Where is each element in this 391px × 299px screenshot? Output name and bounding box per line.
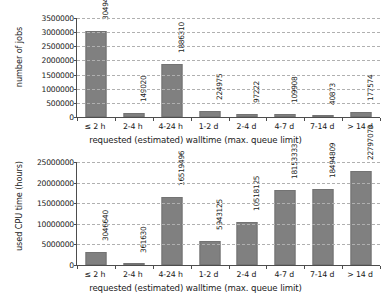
x-tick-mark (304, 266, 305, 269)
x-tick-mark (304, 118, 305, 121)
gridline (77, 203, 380, 204)
jobs-bar-chart: number of jobs 0500000100000015000002000… (0, 0, 391, 149)
y-tick-label: 500000 (46, 98, 74, 107)
bar[interactable] (237, 222, 258, 265)
y-tick-label: 2000000 (42, 56, 74, 65)
x-tick-mark (229, 118, 230, 121)
gridline (77, 103, 380, 104)
x-tick-mark (115, 266, 116, 269)
jobs-chart-y-tick-labels: 0500000100000015000002000000250000030000… (22, 18, 74, 117)
x-tick-label: 4-7 d (274, 270, 294, 279)
y-tick-label: 1000000 (42, 84, 74, 93)
bar-value-label: 22797073 (366, 125, 375, 160)
bar-value-label: 361630 (138, 226, 147, 252)
bar-value-label: 1886310 (176, 22, 185, 53)
bar[interactable] (313, 115, 334, 117)
cpu-chart-plot-area: 3046640361630165194965943125105181251815… (76, 162, 380, 266)
y-tick-label: 1500000 (42, 70, 74, 79)
x-tick-label: ≤ 2 h (84, 122, 105, 131)
x-tick-label: 2-4 d (237, 122, 257, 131)
y-tick-mark (74, 18, 77, 19)
gridline (77, 60, 380, 61)
bar[interactable] (123, 113, 144, 117)
gridline (77, 46, 380, 47)
x-tick-label: 2-4 h (123, 122, 143, 131)
bar[interactable] (351, 112, 372, 117)
x-tick-mark (342, 118, 343, 121)
y-tick-label: 25000000 (37, 158, 74, 167)
bar-slot: 22797073 (342, 162, 380, 265)
bar[interactable] (123, 263, 144, 265)
x-tick-mark (191, 118, 192, 121)
bar[interactable] (237, 114, 258, 117)
x-tick-mark (153, 118, 154, 121)
x-tick-mark (229, 266, 230, 269)
bar[interactable] (199, 111, 220, 117)
bar[interactable] (275, 114, 296, 117)
y-tick-label: 15000000 (37, 199, 74, 208)
bar-slot: 5943125 (191, 162, 229, 265)
bar-value-label: 3046640 (100, 211, 109, 242)
x-tick-mark (77, 118, 78, 121)
x-tick-mark (380, 118, 381, 121)
jobs-chart-plot-area: 3049474149020188631022497597222109908408… (76, 18, 380, 118)
y-tick-mark (74, 46, 77, 47)
x-tick-mark (115, 118, 116, 121)
x-tick-label: > 14 d (347, 270, 373, 279)
gridline (77, 183, 380, 184)
cpu-bar-chart: used CPU time (hours) 050000001000000015… (0, 149, 391, 299)
bar[interactable] (161, 197, 182, 265)
x-tick-mark (342, 266, 343, 269)
y-tick-mark (74, 89, 77, 90)
bar-slot: 18153333 (266, 162, 304, 265)
x-tick-mark (153, 266, 154, 269)
y-tick-mark (74, 75, 77, 76)
bar[interactable] (275, 190, 296, 265)
gridline (77, 162, 380, 163)
bar-value-label: 97222 (252, 81, 261, 103)
x-tick-label: 1-2 d (199, 122, 219, 131)
cpu-chart-bars: 3046640361630165194965943125105181251815… (77, 162, 380, 265)
gridline (77, 75, 380, 76)
y-tick-label: 10000000 (37, 219, 74, 228)
gridline (77, 244, 380, 245)
bar-value-label: 224975 (214, 73, 223, 99)
bar-value-label: 18494809 (328, 143, 337, 178)
x-tick-label: 7-14 d (310, 122, 335, 131)
bar[interactable] (85, 252, 106, 265)
gridline (77, 89, 380, 90)
gridline (77, 32, 380, 33)
x-tick-mark (266, 118, 267, 121)
bar-slot: 18494809 (304, 162, 342, 265)
x-tick-mark (77, 266, 78, 269)
bar-value-label: 16519496 (176, 151, 185, 186)
figure-container: number of jobs 0500000100000015000002000… (0, 0, 391, 299)
bar[interactable] (161, 64, 182, 117)
bar-slot: 10518125 (229, 162, 267, 265)
y-tick-label: 3500000 (42, 14, 74, 23)
x-tick-label: 2-4 h (123, 270, 143, 279)
bar-value-label: 40873 (328, 82, 337, 104)
x-tick-label: 4-24 h (158, 122, 183, 131)
bar[interactable] (351, 171, 372, 265)
x-tick-label: 4-7 d (274, 122, 294, 131)
y-tick-label: 20000000 (37, 178, 74, 187)
x-tick-label: 4-24 h (158, 270, 183, 279)
y-tick-label: 3000000 (42, 28, 74, 37)
cpu-chart-x-axis-title: requested (estimated) walltime (max. que… (0, 283, 391, 293)
bar-slot: 3046640 (77, 162, 115, 265)
x-tick-label: 2-4 d (237, 270, 257, 279)
y-tick-mark (74, 224, 77, 225)
y-tick-label: 5000000 (42, 240, 74, 249)
bar-value-label: 3049474 (100, 0, 109, 20)
cpu-chart-y-tick-labels: 0500000010000000150000002000000025000000 (22, 162, 74, 265)
x-tick-mark (191, 266, 192, 269)
x-tick-mark (266, 266, 267, 269)
y-tick-mark (74, 60, 77, 61)
gridline (77, 224, 380, 225)
x-tick-label: ≤ 2 h (84, 270, 105, 279)
y-tick-mark (74, 203, 77, 204)
x-tick-label: 1-2 d (199, 270, 219, 279)
gridline (77, 18, 380, 19)
bar[interactable] (313, 189, 334, 265)
